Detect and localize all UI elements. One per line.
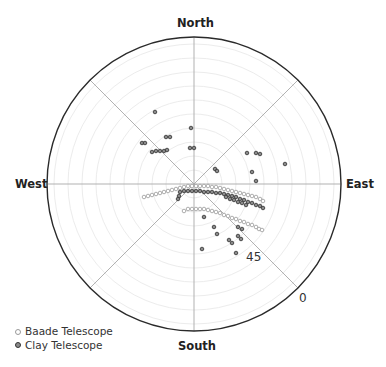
data-point — [166, 189, 170, 193]
open-circle-marker-icon — [15, 329, 21, 335]
data-point — [242, 192, 246, 196]
data-point — [226, 214, 230, 218]
data-point — [232, 198, 236, 202]
data-point — [189, 126, 193, 130]
altitude-label-0: 0 — [299, 291, 307, 305]
data-point — [202, 184, 206, 188]
legend: Baade Telescope Clay Telescope — [15, 325, 113, 352]
data-point — [158, 191, 162, 195]
data-point — [234, 217, 238, 221]
data-point — [190, 189, 194, 193]
data-point — [170, 188, 174, 192]
data-point — [240, 227, 244, 231]
direction-label-east: East — [346, 177, 374, 191]
data-point — [236, 234, 240, 238]
direction-label-north: North — [177, 16, 214, 30]
data-point — [222, 187, 226, 191]
data-point — [210, 209, 214, 213]
data-point — [250, 223, 254, 227]
data-point — [198, 189, 202, 193]
data-point — [230, 216, 234, 220]
data-point — [182, 185, 186, 189]
data-point — [142, 195, 146, 199]
altitude-label-45: 45 — [246, 250, 261, 264]
data-point — [254, 203, 258, 207]
data-point — [182, 189, 186, 193]
data-point — [254, 179, 258, 183]
data-point — [242, 220, 246, 224]
data-point — [230, 241, 234, 245]
data-point — [238, 219, 242, 223]
data-point — [192, 146, 196, 150]
data-point — [261, 206, 265, 210]
data-point — [236, 200, 240, 204]
data-point — [202, 215, 206, 219]
data-point — [250, 194, 254, 198]
data-point — [158, 149, 162, 153]
data-point — [186, 207, 190, 211]
data-point — [198, 184, 202, 188]
data-point — [246, 193, 250, 197]
data-point — [178, 186, 182, 190]
data-point — [186, 184, 190, 188]
direction-label-south: South — [178, 339, 216, 353]
data-point — [188, 146, 192, 150]
filled-circle-marker-icon — [15, 342, 21, 348]
data-point — [150, 150, 154, 154]
data-point — [283, 162, 287, 166]
data-point — [202, 207, 206, 211]
data-point — [150, 193, 154, 197]
data-point — [254, 195, 258, 199]
data-point — [174, 187, 178, 191]
data-point — [218, 186, 222, 190]
data-point — [186, 189, 190, 193]
data-point — [200, 247, 204, 251]
data-point — [162, 190, 166, 194]
data-point — [240, 201, 244, 205]
data-point — [206, 190, 210, 194]
data-point — [215, 232, 219, 236]
legend-label-baade: Baade Telescope — [25, 325, 113, 339]
grid-spokes — [47, 37, 341, 331]
data-point — [168, 135, 172, 139]
data-point — [182, 209, 186, 213]
data-point — [210, 190, 214, 194]
data-point — [214, 210, 218, 214]
data-point — [165, 148, 169, 152]
data-point — [198, 207, 202, 211]
legend-item-baade: Baade Telescope — [15, 325, 113, 339]
data-point — [194, 184, 198, 188]
data-point — [190, 184, 194, 188]
data-point — [146, 194, 150, 198]
data-point — [212, 225, 216, 229]
data-point — [250, 201, 254, 205]
data-point — [194, 189, 198, 193]
data-point — [210, 185, 214, 189]
data-point — [164, 135, 168, 139]
data-point — [176, 197, 180, 201]
data-point — [218, 191, 222, 195]
data-point — [250, 170, 254, 174]
data-point — [238, 191, 242, 195]
data-point — [236, 225, 240, 229]
data-point — [234, 251, 238, 255]
data-point — [226, 188, 230, 192]
legend-item-clay: Clay Telescope — [15, 339, 113, 353]
data-point — [194, 207, 198, 211]
data-point — [218, 211, 222, 215]
data-point — [214, 185, 218, 189]
data-point — [244, 203, 248, 207]
data-point — [227, 238, 231, 242]
legend-label-clay: Clay Telescope — [25, 339, 103, 353]
data-point — [178, 190, 182, 194]
data-point — [230, 189, 234, 193]
data-point — [143, 141, 147, 145]
direction-label-west: West — [15, 177, 47, 191]
data-point — [206, 184, 210, 188]
data-point — [190, 207, 194, 211]
polar-plot — [0, 0, 386, 367]
data-point — [224, 195, 228, 199]
data-point — [222, 213, 226, 217]
data-point — [154, 192, 158, 196]
data-point — [234, 190, 238, 194]
